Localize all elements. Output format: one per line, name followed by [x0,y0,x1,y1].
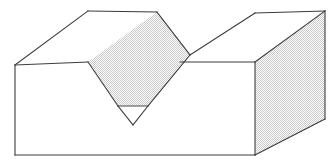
figure-container [0,0,335,168]
block-with-v-groove-drawing [0,0,335,168]
solid-faces [15,11,325,155]
